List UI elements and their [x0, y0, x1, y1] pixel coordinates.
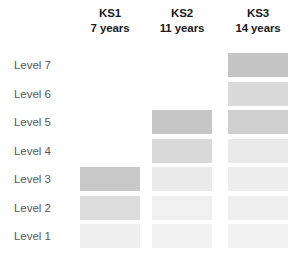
- level-block-ks2-level-1: [152, 224, 212, 248]
- level-block-ks1-level-3: [80, 167, 140, 191]
- key-stage-levels-chart: KS17 yearsKS211 yearsKS314 years Level 7…: [0, 0, 295, 266]
- level-block-ks1-level-1: [80, 224, 140, 248]
- level-block-ks3-level-4: [228, 139, 288, 163]
- level-block-ks2-level-4: [152, 139, 212, 163]
- level-block-ks3-level-1: [228, 224, 288, 248]
- level-block-ks3-level-2: [228, 196, 288, 220]
- level-block-ks2-level-5: [152, 110, 212, 134]
- level-block-ks2-level-3: [152, 167, 212, 191]
- level-block-ks3-level-5: [228, 110, 288, 134]
- level-block-ks3-level-6: [228, 82, 288, 106]
- level-block-ks1-level-2: [80, 196, 140, 220]
- level-block-ks3-level-3: [228, 167, 288, 191]
- blocks-grid: [0, 0, 295, 266]
- level-block-ks2-level-2: [152, 196, 212, 220]
- level-block-ks3-level-7: [228, 53, 288, 77]
